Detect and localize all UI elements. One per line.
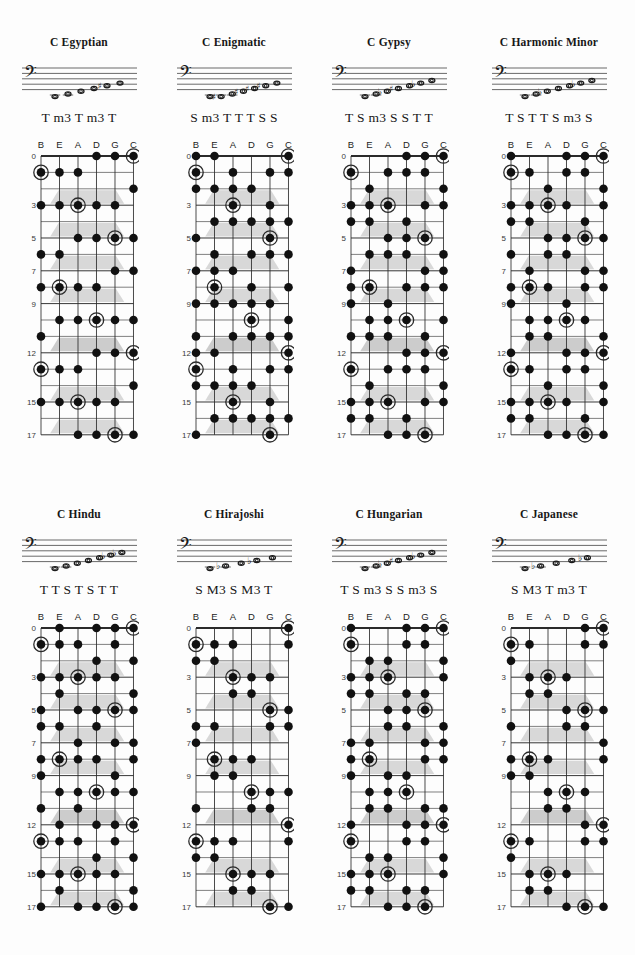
scale-note-dot: [192, 381, 201, 390]
string-label: B: [348, 139, 354, 150]
scale-note-dot: [55, 168, 64, 177]
fret-number-label: 5: [342, 706, 347, 715]
scale-note-dot: [229, 365, 238, 374]
scale-note-dot: [284, 316, 293, 325]
fret-number-label: 15: [497, 870, 506, 879]
scale-note-dot: [421, 624, 430, 633]
staff-notation: 𝄢♭♭: [470, 532, 628, 580]
staff-notation: 𝄢♭♭: [155, 532, 313, 580]
scale-note-dot: [247, 804, 256, 813]
scale-note-dot: [111, 624, 120, 633]
scale-note-dot: [439, 738, 448, 747]
fret-number-label: 15: [337, 398, 346, 407]
string-label: D: [248, 139, 255, 150]
fretboard-diagram: BEADGC03579121517: [155, 606, 313, 926]
scale-note-dot: [92, 870, 101, 879]
scale-note-dot: [37, 673, 46, 682]
scale-note-dot: [92, 283, 101, 292]
scale-note-dot: [92, 624, 101, 633]
scale-note-dot: [439, 381, 448, 390]
fret-number-label: 9: [187, 300, 192, 309]
fretboard-diagram: BEADGC03579121517: [155, 134, 313, 454]
string-label: E: [526, 611, 532, 622]
scale-note-dot: [129, 184, 138, 193]
scale-note-dot: [74, 316, 83, 325]
scale-note-dot: [74, 738, 83, 747]
scale-note-dot: [525, 201, 534, 210]
scale-note-dot: [266, 870, 275, 879]
staff-note: [589, 78, 595, 82]
fret-number-label: 3: [187, 673, 192, 682]
scale-note-dot: [210, 837, 219, 846]
staff-note: ♯: [212, 92, 227, 102]
scale-note-dot: [421, 201, 430, 210]
scale-note-dot: [347, 738, 356, 747]
scale-note-dot: [247, 673, 256, 682]
staff-note: [50, 95, 60, 99]
scale-note-dot: [525, 332, 534, 341]
fret-number-label: 7: [32, 739, 37, 748]
scale-note-dot: [129, 266, 138, 275]
fret-number-label: 17: [337, 431, 346, 440]
string-label: B: [193, 611, 199, 622]
scale-note-dot: [37, 722, 46, 731]
scale-note-dot: [266, 299, 275, 308]
scale-note-dot: [229, 184, 238, 193]
scale-note-dot: [111, 316, 120, 325]
fret-number-label: 0: [342, 624, 347, 633]
scale-note-dot: [402, 886, 411, 895]
scale-note-dot: [347, 673, 356, 682]
scale-note-dot: [439, 853, 448, 862]
scale-note-dot: [37, 283, 46, 292]
staff-notation: 𝄢♭♯♭: [310, 60, 468, 108]
scale-note-dot: [266, 365, 275, 374]
scale-note-dot: [210, 853, 219, 862]
interval-pattern: T T S T S T T: [0, 580, 158, 600]
scale-note-dot: [421, 755, 430, 764]
fret-number-label: 0: [502, 624, 507, 633]
string-label: B: [508, 139, 514, 150]
scale-note-dot: [384, 234, 393, 243]
scale-note-dot: [581, 624, 590, 633]
scale-note-dot: [402, 837, 411, 846]
scale-note-dot: [439, 250, 448, 259]
scale-title: C Hirajoshi: [155, 506, 313, 522]
string-label: A: [385, 139, 392, 150]
scale-note-dot: [247, 283, 256, 292]
scale-note-dot: [402, 640, 411, 649]
fret-number-label: 15: [497, 398, 506, 407]
scale-note-dot: [92, 673, 101, 682]
scale-note-dot: [74, 804, 83, 813]
staff-notation: 𝄢♭♭: [0, 532, 158, 580]
string-label: G: [111, 611, 118, 622]
scale-note-dot: [229, 640, 238, 649]
flat-accidental-icon: ♭: [216, 561, 220, 571]
staff-notation: 𝄢♯♯♯♯: [155, 60, 313, 108]
scale-note-dot: [439, 804, 448, 813]
scale-note-dot: [599, 640, 608, 649]
flat-accidental-icon: ♭: [101, 551, 105, 561]
scale-note-dot: [111, 152, 120, 161]
scale-note-dot: [229, 689, 238, 698]
staff-note: ♭: [247, 556, 259, 566]
scale-note-dot: [421, 886, 430, 895]
scale-note-dot: [229, 381, 238, 390]
sharp-accidental-icon: ♯: [389, 84, 393, 94]
scale-note-dot: [581, 414, 590, 423]
scale-note-dot: [507, 771, 516, 780]
fret-number-label: 0: [32, 152, 37, 161]
scale-note-dot: [284, 250, 293, 259]
scale-title: C Hindu: [0, 506, 158, 522]
scale-note-dot: [365, 316, 374, 325]
scale-note-dot: [421, 283, 430, 292]
scale-note-dot: [599, 184, 608, 193]
scale-note-dot: [525, 365, 534, 374]
scale-note-dot: [402, 414, 411, 423]
scale-note-dot: [92, 656, 101, 665]
staff-note: [429, 78, 435, 82]
scale-note-dot: [55, 316, 64, 325]
scale-note-dot: [439, 673, 448, 682]
scale-note-dot: [562, 430, 571, 439]
scale-note-dot: [544, 689, 553, 698]
scale-note-dot: [507, 755, 516, 764]
